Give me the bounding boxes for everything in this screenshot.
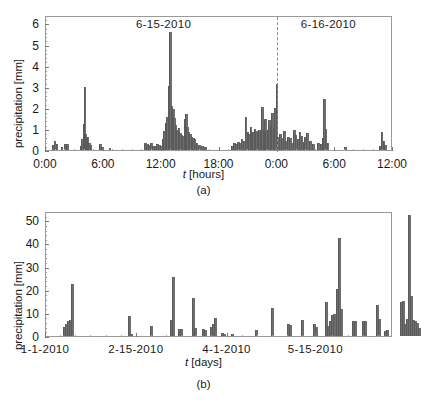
x-tick-minor: [141, 149, 142, 151]
y-tick-minor: [45, 75, 47, 76]
y-tick-minor: [45, 134, 47, 135]
panel-b-x-axis-label: t [days]: [0, 356, 407, 368]
y-tick-minor: [45, 249, 47, 250]
x-tick-minor: [112, 149, 113, 151]
x-tick-minor: [348, 335, 349, 337]
y-tick-mark: [45, 109, 49, 110]
bar: [327, 143, 330, 150]
bar: [109, 148, 112, 150]
y-tick-minor: [45, 71, 47, 72]
bar: [61, 147, 64, 150]
x-tick-minor: [238, 149, 239, 151]
x-tick-mark: [334, 147, 335, 151]
panel-b-tag: (b): [0, 378, 407, 390]
bar: [223, 334, 226, 336]
x-tick-minor: [181, 335, 182, 337]
y-tick-minor: [45, 212, 47, 213]
y-tick-label: 4: [11, 60, 39, 74]
y-tick-minor: [45, 62, 47, 63]
y-tick-minor: [45, 33, 47, 34]
y-tick-label: 1: [11, 123, 39, 137]
y-tick-minor: [45, 105, 47, 106]
y-tick-minor: [45, 84, 47, 85]
y-tick-mark: [45, 268, 49, 269]
x-tick-minor: [106, 335, 107, 337]
y-tick-minor: [45, 309, 47, 310]
y-tick-label: 3: [11, 81, 39, 95]
y-tick-mark: [45, 24, 49, 25]
date-annotation: 6-16-2010: [301, 18, 356, 30]
y-tick-label: 10: [11, 307, 39, 321]
x-tick-minor: [344, 149, 345, 151]
x-tick-minor: [166, 335, 167, 337]
bar: [364, 321, 367, 336]
y-tick-minor: [45, 328, 47, 329]
y-tick-minor: [45, 143, 47, 144]
y-tick-minor: [45, 79, 47, 80]
y-tick-label: 20: [11, 284, 39, 298]
y-tick-minor: [45, 92, 47, 93]
x-tick-minor: [302, 335, 303, 337]
y-tick-mark: [45, 221, 49, 222]
x-tick-minor: [90, 335, 91, 337]
x-tick-minor: [382, 149, 383, 151]
y-tick-label: 30: [11, 261, 39, 275]
y-tick-minor: [45, 300, 47, 301]
bar: [71, 284, 74, 336]
date-annotation: 6-15-2010: [136, 18, 191, 30]
x-tick-label: 5-15-2010: [288, 343, 343, 355]
y-tick-mark: [45, 314, 49, 315]
panel-b-x-axis-unit: [days]: [188, 356, 222, 368]
x-tick-minor: [121, 335, 122, 337]
panel-a: precipitation [mm] 6-15-20106-16-2010 01…: [0, 0, 407, 200]
x-tick-minor: [257, 149, 258, 151]
bar: [172, 277, 175, 336]
x-tick-minor: [75, 335, 76, 337]
y-tick-minor: [45, 126, 47, 127]
x-tick-minor: [296, 149, 297, 151]
x-tick-minor: [228, 149, 229, 151]
bar: [340, 309, 343, 336]
y-tick-minor: [45, 277, 47, 278]
y-tick-minor: [45, 226, 47, 227]
y-tick-mark: [45, 337, 49, 338]
x-tick-minor: [286, 149, 287, 151]
x-tick-minor: [209, 149, 210, 151]
y-tick-mark: [45, 291, 49, 292]
x-tick-minor: [363, 335, 364, 337]
y-tick-minor: [45, 305, 47, 306]
y-tick-minor: [45, 318, 47, 319]
x-tick-minor: [305, 149, 306, 151]
bar: [354, 321, 357, 336]
bar: [271, 308, 274, 336]
y-tick-minor: [45, 272, 47, 273]
bar: [289, 325, 292, 336]
y-tick-mark: [45, 151, 49, 152]
x-tick-minor: [170, 149, 171, 151]
y-tick-minor: [45, 96, 47, 97]
x-tick-minor: [60, 335, 61, 337]
panel-b-plot-frame: [45, 212, 392, 337]
x-tick-minor: [353, 149, 354, 151]
bar: [386, 330, 389, 336]
y-tick-minor: [45, 37, 47, 38]
bar: [301, 320, 304, 336]
y-tick-label: 0: [11, 144, 39, 158]
y-tick-minor: [45, 235, 47, 236]
y-tick-mark: [45, 244, 49, 245]
bar: [204, 147, 207, 150]
y-tick-label: 40: [11, 237, 39, 251]
x-tick-mark: [161, 147, 162, 151]
x-tick-mark: [227, 333, 228, 337]
x-tick-minor: [257, 335, 258, 337]
x-tick-minor: [64, 149, 65, 151]
x-tick-mark: [276, 147, 277, 151]
y-tick-minor: [45, 258, 47, 259]
x-tick-mark: [219, 147, 220, 151]
x-tick-minor: [180, 149, 181, 151]
bar: [384, 145, 387, 150]
panel-b: precipitation [mm] 01020304050 1-1-20102…: [0, 198, 407, 410]
y-tick-label: 2: [11, 102, 39, 116]
x-tick-mark: [45, 147, 46, 151]
